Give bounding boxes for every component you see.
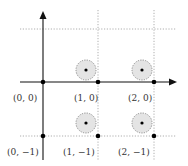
point-0-0 xyxy=(41,80,46,85)
point-0-m1 xyxy=(41,134,46,139)
circle-1 xyxy=(76,60,96,80)
label-1-m1: (1, −1) xyxy=(63,147,95,157)
point-2-0 xyxy=(152,80,157,85)
circle-4 xyxy=(132,113,152,133)
x-axis-arrow-icon xyxy=(169,79,177,86)
circle-2 xyxy=(132,60,152,80)
label-0-m1: (0, −1) xyxy=(7,147,39,157)
label-1-0: (1, 0) xyxy=(74,93,98,103)
point-1-0 xyxy=(96,80,101,85)
point-2-m1 xyxy=(152,134,157,139)
circle-3 xyxy=(76,113,96,133)
lattice-diagram: (0, 0) (1, 0) (2, 0) (0, −1) (1, −1) (2,… xyxy=(0,0,188,166)
label-0-0: (0, 0) xyxy=(13,93,37,103)
y-axis-arrow-icon xyxy=(40,11,47,19)
label-2-0: (2, 0) xyxy=(128,93,152,103)
point-1-m1 xyxy=(96,134,101,139)
label-2-m1: (2, −1) xyxy=(118,147,150,157)
